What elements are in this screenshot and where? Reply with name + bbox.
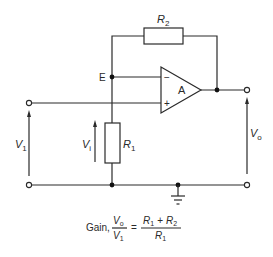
input-ground-terminal [26, 182, 31, 187]
opamp-plus: + [164, 98, 170, 109]
circuit-diagram: R2 E − + A R1 V1 Vi [0, 0, 273, 257]
gain-rhs-denominator: R1 [155, 230, 166, 242]
r1-ground-dot [110, 183, 115, 188]
gain-rhs-numerator: R1+R2 [143, 215, 177, 227]
output-terminal [244, 87, 249, 92]
r2-label: R2 [157, 13, 170, 28]
vi-arrow-icon [93, 120, 97, 162]
node-e-label: E [99, 72, 106, 83]
gain-equals: = [131, 222, 137, 233]
resistor-r2 [144, 28, 183, 44]
node-e-dot [110, 75, 115, 80]
gain-formula: Gain, Vo V1 = R1+R2 R1 [86, 215, 181, 242]
gain-lhs-numerator: Vo [113, 215, 124, 227]
vi-label: Vi [82, 138, 91, 153]
gain-lhs-denominator: V1 [113, 230, 124, 242]
feedback-wire [112, 36, 144, 96]
output-node-dot [215, 88, 220, 93]
vo-arrow-icon [245, 97, 249, 174]
opamp-label: A [178, 84, 186, 96]
input-terminal [26, 100, 31, 105]
vo-label: Vo [250, 127, 262, 142]
output-ground-terminal [244, 182, 249, 187]
gain-prefix: Gain, [86, 222, 110, 233]
v1-label: V1 [15, 138, 27, 153]
opamp-minus: − [164, 72, 170, 83]
ground-icon [171, 185, 185, 204]
resistor-r1 [105, 123, 120, 163]
v1-arrow-icon [27, 110, 31, 176]
r1-label: R1 [123, 138, 136, 153]
